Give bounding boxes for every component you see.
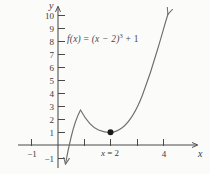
x-tick-label-4: 4 bbox=[156, 150, 172, 159]
y-tick-label-5: 5 bbox=[40, 77, 54, 86]
y-axis-ticks bbox=[58, 16, 65, 159]
y-tick-label-2: 2 bbox=[40, 116, 54, 125]
y-tick-label-1: 1 bbox=[40, 129, 54, 138]
y-tick-label-4: 4 bbox=[40, 90, 54, 99]
inflection-annotation-value: = 2 bbox=[105, 148, 119, 158]
x-axis-label: x bbox=[198, 149, 202, 159]
function-equation: f(x) = (x − 2)3 + 1 bbox=[67, 33, 139, 45]
y-tick-label-8: 8 bbox=[40, 38, 54, 47]
equation-base: (x − 2) bbox=[92, 34, 120, 44]
y-axis-label: y bbox=[49, 1, 53, 11]
y-tick-label-9: 9 bbox=[40, 25, 54, 34]
inflection-annotation: x = 2 bbox=[90, 149, 130, 158]
graph-figure: 10 9 8 7 6 5 4 3 2 1 −1 −1 4 y x f(x) = … bbox=[0, 0, 210, 174]
x-tick-label-neg1: −1 bbox=[24, 150, 40, 159]
y-tick-label-3: 3 bbox=[40, 103, 54, 112]
y-tick-label-7: 7 bbox=[40, 51, 54, 60]
inflection-point-marker bbox=[108, 129, 114, 135]
y-tick-label-6: 6 bbox=[40, 64, 54, 73]
y-tick-label-10: 10 bbox=[40, 12, 54, 21]
equation-exponent: 3 bbox=[120, 32, 123, 39]
y-tick-label-neg1: −1 bbox=[40, 155, 54, 164]
equation-fx: f(x) bbox=[67, 34, 81, 44]
function-curve-lower-branch bbox=[66, 110, 81, 164]
equation-plus-one: + 1 bbox=[126, 34, 139, 44]
function-curve bbox=[81, 14, 169, 133]
equation-equals: = bbox=[84, 34, 90, 44]
